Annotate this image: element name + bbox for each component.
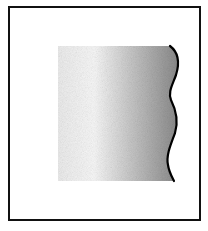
shaded-panel-figure (0, 0, 208, 231)
shaded-panel (58, 46, 178, 181)
